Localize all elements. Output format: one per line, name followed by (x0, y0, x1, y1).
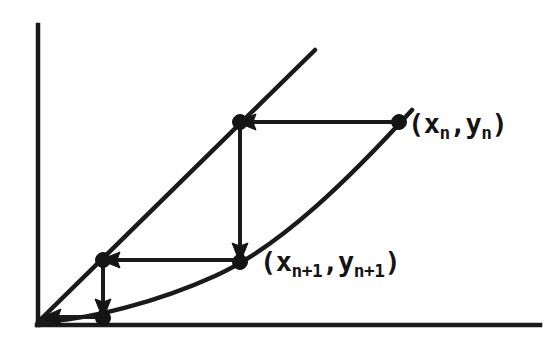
label-x-subscript: n+1 (292, 260, 323, 281)
label-open-paren: ( (260, 246, 276, 277)
point-marker-xn2-curve (96, 311, 111, 326)
point-marker-xn1-yn1 (233, 255, 248, 270)
cobweb-figure: (xn,yn) (xn+1,yn+1) (0, 0, 560, 353)
identity-line-group (38, 50, 315, 322)
point-marker-xn-yn (392, 115, 407, 130)
map-curve-group (38, 110, 412, 322)
label-separator: , (450, 108, 466, 139)
point-marker-xn1-diag (96, 253, 111, 268)
point-marker-xn-diag (233, 115, 248, 130)
label-separator: , (322, 246, 338, 277)
label-x-symbol: x (276, 246, 292, 277)
label-open-paren: ( (408, 108, 424, 139)
point-label-xn-yn: (xn,yn) (408, 110, 507, 137)
label-x-subscript: n (440, 122, 450, 143)
label-x-symbol: x (424, 108, 440, 139)
axes-group (37, 25, 540, 325)
label-close-paren: ) (384, 246, 400, 277)
label-y-subscript: n+1 (354, 260, 385, 281)
label-close-paren: ) (492, 108, 508, 139)
label-y-symbol: y (466, 108, 482, 139)
map-curve-y-equals-f-of-x (38, 110, 412, 322)
cobweb-plot-canvas (0, 0, 560, 353)
label-y-subscript: n (481, 122, 491, 143)
point-label-xn1-yn1: (xn+1,yn+1) (260, 248, 400, 275)
label-y-symbol: y (338, 246, 354, 277)
identity-line-y-equals-x (38, 50, 315, 322)
